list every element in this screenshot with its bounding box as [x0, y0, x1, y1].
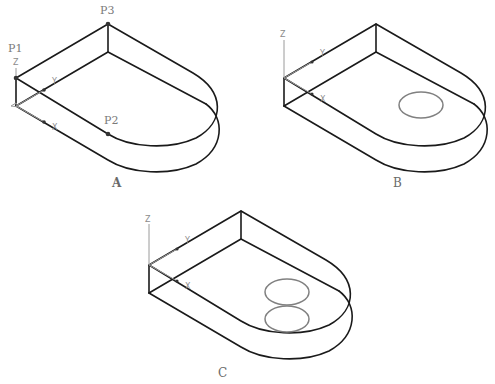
axis-tick-icon — [310, 92, 313, 95]
ucs-origin-icon — [11, 103, 19, 107]
y-axis — [149, 249, 177, 265]
y-axis-label: Y — [319, 49, 325, 58]
figure-b-label: B — [393, 176, 402, 190]
y-axis-label: Y — [184, 236, 190, 245]
figure-c: Z Y X C — [145, 211, 352, 380]
solid-shape — [16, 24, 219, 172]
figure-a-label: A — [111, 176, 122, 190]
figure-b: Z Y X B — [280, 24, 487, 190]
point-p1 — [14, 76, 19, 81]
axis-tick-icon — [42, 88, 46, 92]
hole-circle — [399, 92, 443, 118]
point-p2 — [106, 132, 111, 137]
y-axis-label: Y — [51, 77, 57, 86]
x-axis-label: X — [320, 95, 326, 104]
point-p1-label: P1 — [8, 42, 22, 55]
x-axis — [149, 265, 177, 281]
z-axis-label: Z — [13, 58, 19, 67]
point-p2-label: P2 — [104, 114, 118, 127]
y-axis — [284, 62, 312, 78]
z-axis-label: Z — [280, 30, 286, 39]
diagram-canvas: Z Y X P1 P2 P3 A Z Y X B Z Y — [0, 0, 495, 384]
figure-c-label: C — [218, 366, 227, 380]
hole-circle-bottom — [265, 306, 309, 332]
hole-circle-top — [265, 279, 309, 305]
solid-shape — [149, 211, 352, 359]
axis-tick-icon — [42, 120, 46, 124]
axis-tick-icon — [175, 279, 178, 282]
figure-a: Z Y X P1 P2 P3 A — [8, 4, 219, 190]
z-axis-label: Z — [145, 215, 151, 224]
x-axis — [16, 106, 44, 122]
point-p3-label: P3 — [100, 4, 114, 17]
point-p3 — [106, 22, 111, 27]
axis-tick-icon — [310, 60, 313, 63]
x-axis — [284, 78, 312, 94]
x-axis-label: X — [185, 282, 191, 291]
solid-shape — [284, 24, 487, 172]
y-axis — [16, 90, 44, 106]
axis-tick-icon — [175, 247, 178, 250]
x-axis-label: X — [52, 123, 58, 132]
